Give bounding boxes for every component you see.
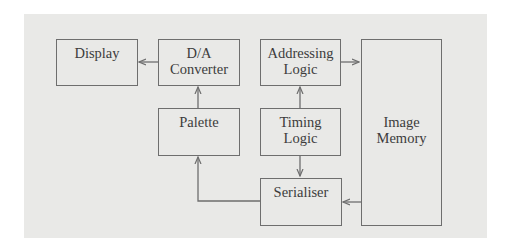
addressing-logic-block: Addressing Logic [260,39,341,86]
timing-logic-label-line1: Timing [261,114,340,130]
da-converter-label-line2: Converter [159,61,239,77]
display-label: Display [57,45,137,61]
addressing-logic-label-line2: Logic [261,61,340,77]
timing-logic-label-line2: Logic [261,130,340,146]
da-converter-label-line1: D/A [159,45,239,61]
arrow-serialiser-to-palette [198,157,260,201]
display-block: Display [56,39,138,86]
image-memory-label-line2: Memory [362,130,441,146]
image-memory-label-line1: Image [362,114,441,130]
addressing-logic-label-line1: Addressing [261,45,340,61]
image-memory-block: Image Memory [361,39,442,226]
da-converter-block: D/A Converter [158,39,240,86]
serialiser-block: Serialiser [260,178,342,226]
palette-label: Palette [159,114,239,130]
timing-logic-block: Timing Logic [260,108,341,156]
palette-block: Palette [158,108,240,156]
serialiser-label: Serialiser [261,184,341,200]
